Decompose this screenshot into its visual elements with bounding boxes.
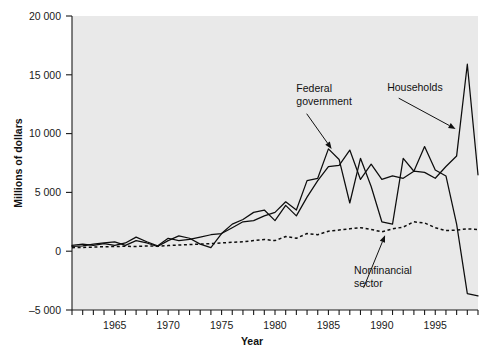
y-tick-label: 0 (55, 245, 61, 257)
x-tick-label: 1980 (263, 319, 287, 331)
y-axis-ticks: –5 00005 00010 00015 00020 000 (29, 10, 72, 316)
annotation-label-households: Households (387, 81, 442, 93)
x-tick-label: 1970 (156, 319, 180, 331)
y-tick-label: 10 000 (29, 127, 61, 139)
x-tick-label: 1990 (370, 319, 394, 331)
chart-canvas: –5 00005 00010 00015 00020 000 196519701… (0, 0, 498, 351)
y-tick-label: 5 000 (35, 186, 61, 198)
x-axis-title: Year (241, 335, 263, 347)
x-tick-label: 1965 (103, 319, 127, 331)
chart-figure: –5 00005 00010 00015 00020 000 196519701… (0, 0, 498, 351)
x-axis-ticks: 1965197019751980198519901995 (72, 310, 478, 331)
y-axis-title: Millions of dollars (12, 118, 24, 207)
x-tick-label: 1975 (210, 319, 234, 331)
y-tick-label: –5 000 (29, 304, 61, 316)
y-tick-label: 20 000 (29, 10, 61, 22)
x-tick-label: 1985 (317, 319, 341, 331)
x-tick-label: 1995 (424, 319, 448, 331)
y-tick-label: 15 000 (29, 69, 61, 81)
